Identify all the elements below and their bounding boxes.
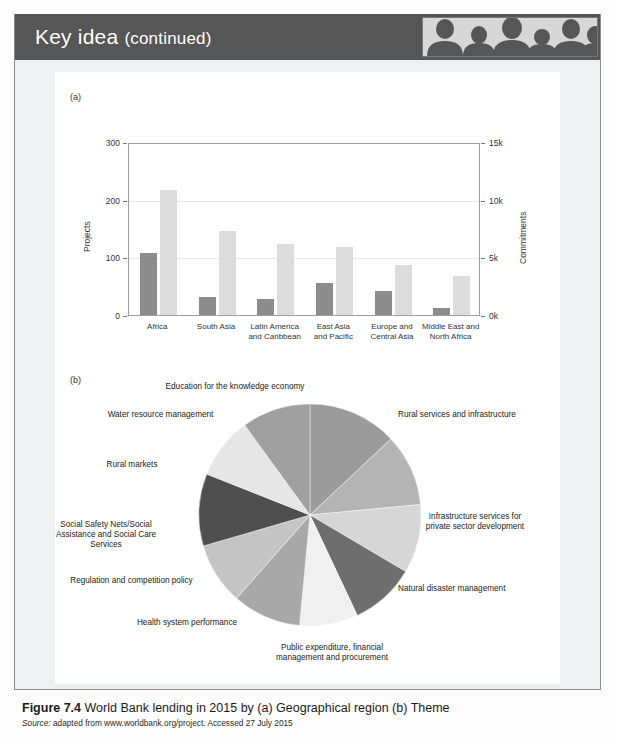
- pie-slice-label: Water resource management: [78, 410, 243, 420]
- pie-slice-label: Social Safety Nets/SocialAssistance and …: [36, 520, 176, 550]
- page-title-lead: Key idea: [35, 25, 118, 48]
- bar-chart-y-axis-title: Projects: [82, 221, 92, 252]
- bar-chart-y2-tick: 5k: [489, 253, 519, 263]
- bar-chart-y-tick-mark: [123, 201, 127, 202]
- bar-chart-bar: [453, 276, 470, 315]
- people-silhouette-icon: [423, 18, 597, 56]
- bar-chart-y2-tick: 15k: [489, 138, 519, 148]
- bar-chart-bar: [140, 253, 157, 315]
- bar-chart-y2-tick: 10k: [489, 196, 519, 206]
- pie-slice-label: Rural services and infrastructure: [398, 410, 568, 420]
- figure-source: Source: adapted from www.worldbank.org/p…: [22, 718, 602, 728]
- pie-slice-label: Public expenditure, financialmanagement …: [242, 643, 422, 663]
- bar-chart-x-tick-label: Middle East andNorth Africa: [409, 322, 492, 341]
- pie-slice-label: Health system performance: [112, 618, 262, 628]
- bar-chart-bar: [277, 244, 294, 316]
- bar-chart-y-tick: 100: [90, 253, 120, 263]
- pie-chart-graphic: [190, 395, 430, 635]
- bar-chart-plot-area: [128, 143, 480, 316]
- figure-source-text: adapted from www.worldbank.org/project. …: [53, 718, 293, 728]
- bar-chart-y2-tick: 0k: [489, 311, 519, 321]
- bar-chart-bar: [375, 291, 392, 315]
- bar-chart-y2-tick-mark: [481, 201, 485, 202]
- bar-chart-y-tick-mark: [123, 316, 127, 317]
- bar-chart-bar: [199, 297, 216, 315]
- bar-chart-y2-tick-mark: [481, 258, 485, 259]
- bar-chart-y2-tick-mark: [481, 316, 485, 317]
- pie-slice-label: Infrastructure services forprivate secto…: [400, 512, 550, 532]
- bar-chart-y-tick: 200: [90, 196, 120, 206]
- bar-chart-bar: [336, 247, 353, 315]
- people-silhouette-photo: [422, 17, 598, 57]
- pie-slice-label: Natural disaster management: [398, 584, 563, 594]
- figure-source-label: Source:: [22, 718, 51, 728]
- figure-page: Key idea (continued): [0, 0, 618, 744]
- pie-slice-label: Regulation and competition policy: [44, 576, 219, 586]
- bar-chart-y-tick: 300: [90, 138, 120, 148]
- bar-chart-bar: [316, 283, 333, 315]
- bar-chart-bar: [433, 308, 450, 315]
- bar-chart-gridline: [129, 201, 479, 202]
- figure-caption-text: World Bank lending in 2015 by (a) Geogra…: [85, 701, 450, 715]
- pie-slice-label: Rural markets: [72, 460, 192, 470]
- bar-chart-y2-tick-mark: [481, 143, 485, 144]
- bar-chart-bar: [219, 231, 236, 315]
- figure-caption: Figure 7.4 World Bank lending in 2015 by…: [22, 700, 602, 728]
- bar-chart-y-tick-mark: [123, 143, 127, 144]
- bar-chart-geographical-region: Projects Commitments 01002003000k5k10k15…: [60, 85, 560, 350]
- bar-chart-gridline: [129, 258, 479, 259]
- bar-chart-bar: [160, 190, 177, 315]
- bar-chart-bar: [257, 299, 274, 315]
- pie-chart-theme: Rural services and infrastructureInfrast…: [30, 368, 590, 688]
- figure-number: Figure 7.4: [22, 701, 81, 715]
- page-title-continued: (continued): [124, 29, 211, 48]
- bar-chart-bar: [395, 265, 412, 315]
- key-idea-header-bar: Key idea (continued): [15, 14, 600, 60]
- page-border-bottom: [14, 689, 601, 690]
- figure-caption-main: Figure 7.4 World Bank lending in 2015 by…: [22, 700, 602, 716]
- bar-chart-y2-axis-title: Commitments: [518, 211, 528, 263]
- page-title: Key idea (continued): [35, 25, 212, 49]
- pie-slice-label: Education for the knowledge economy: [130, 382, 340, 392]
- page-border-right: [600, 14, 601, 690]
- bar-chart-y-tick-mark: [123, 258, 127, 259]
- bar-chart-y-tick: 0: [90, 311, 120, 321]
